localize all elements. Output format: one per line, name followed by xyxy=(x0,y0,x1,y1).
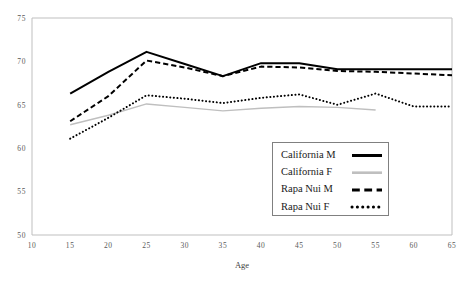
data-series-layer xyxy=(70,52,452,139)
x-axis-ticks: 101520253035404550556065 xyxy=(28,241,457,250)
x-tick-label: 65 xyxy=(448,241,457,250)
x-tick-label: 60 xyxy=(409,241,418,250)
x-tick-label: 20 xyxy=(104,241,113,250)
x-tick-label: 35 xyxy=(219,241,228,250)
legend-label: California F xyxy=(281,166,332,177)
x-tick-label: 15 xyxy=(66,241,75,250)
y-tick-label: 55 xyxy=(17,187,26,196)
y-tick-label: 50 xyxy=(17,231,26,240)
x-axis-title: Age xyxy=(235,260,249,270)
x-tick-label: 25 xyxy=(142,241,151,250)
legend-label: Rapa Nui F xyxy=(281,201,330,212)
legend-label: Rapa Nui M xyxy=(281,183,334,194)
y-axis-ticks: 505560657075 xyxy=(17,14,26,240)
chart-legend: California MCalifornia FRapa Nui MRapa N… xyxy=(273,143,389,216)
x-tick-label: 50 xyxy=(333,241,342,250)
y-tick-label: 75 xyxy=(17,14,26,23)
series-line-rapa-nui-f xyxy=(70,94,452,139)
series-line-california-f xyxy=(70,104,375,125)
y-tick-label: 65 xyxy=(17,101,26,110)
x-tick-label: 45 xyxy=(295,241,304,250)
legend-label: California M xyxy=(281,149,336,160)
x-tick-label: 30 xyxy=(180,241,189,250)
y-tick-label: 60 xyxy=(17,144,26,153)
x-tick-label: 40 xyxy=(257,241,266,250)
x-tick-label: 10 xyxy=(28,241,37,250)
line-chart: 505560657075 101520253035404550556065 Ag… xyxy=(0,0,467,283)
chart-container: 505560657075 101520253035404550556065 Ag… xyxy=(0,0,467,283)
y-tick-label: 70 xyxy=(17,57,26,66)
x-tick-label: 55 xyxy=(371,241,380,250)
